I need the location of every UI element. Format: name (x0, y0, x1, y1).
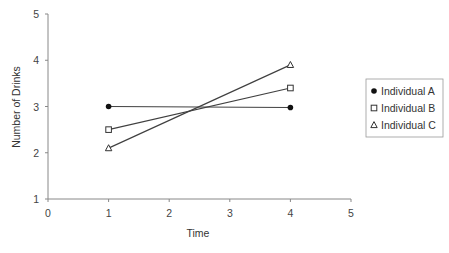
x-axis-title: Time (187, 227, 210, 239)
y-tick-label: 2 (33, 147, 39, 159)
y-tick-label: 1 (33, 193, 39, 205)
triangle-marker-icon (287, 61, 293, 67)
legend-label: Individual C (381, 119, 436, 131)
legend: Individual AIndividual BIndividual C (366, 79, 443, 137)
legend-item: Individual B (371, 102, 435, 114)
square-marker-icon (288, 85, 294, 91)
series-line (109, 88, 291, 130)
x-tick-label: 3 (227, 207, 233, 219)
square-marker-icon (371, 105, 377, 111)
series-individual-b (106, 85, 293, 132)
circle-marker-icon (288, 105, 294, 111)
x-tick-label: 4 (287, 207, 293, 219)
circle-marker-icon (106, 104, 112, 110)
x-tick-label: 0 (45, 207, 51, 219)
line-chart: 12345012345 Number of Drinks Time Indivi… (0, 0, 449, 253)
square-marker-icon (106, 127, 112, 133)
x-tick-label: 2 (166, 207, 172, 219)
y-axis-title: Number of Drinks (10, 66, 22, 148)
x-tick-label: 5 (348, 207, 354, 219)
legend-label: Individual A (381, 85, 435, 97)
legend-item: Individual C (371, 119, 436, 131)
y-tick-label: 5 (33, 8, 39, 20)
legend-item: Individual A (371, 85, 435, 97)
circle-marker-icon (371, 88, 377, 94)
x-tick-label: 1 (106, 207, 112, 219)
y-tick-label: 3 (33, 101, 39, 113)
legend-label: Individual B (381, 102, 435, 114)
y-tick-label: 4 (33, 54, 39, 66)
triangle-marker-icon (105, 145, 111, 151)
data-series (105, 61, 293, 150)
axes: 12345012345 (33, 8, 354, 219)
